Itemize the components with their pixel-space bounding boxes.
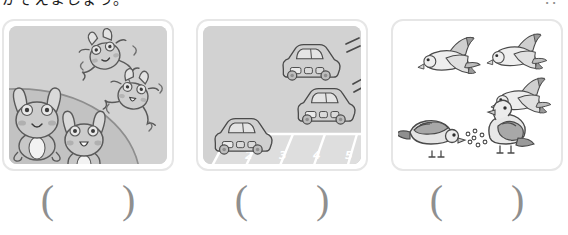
birds-illustration bbox=[398, 26, 556, 164]
answer-blank-frogs[interactable]: ( ) bbox=[2, 176, 174, 224]
svg-text:3: 3 bbox=[279, 149, 287, 162]
exercise-panel-birds[interactable] bbox=[391, 19, 563, 171]
svg-text:5: 5 bbox=[345, 149, 353, 162]
exercise-panel-cars[interactable]: 2 3 4 5 bbox=[196, 19, 368, 171]
svg-text:4: 4 bbox=[312, 149, 321, 162]
answer-blank-birds[interactable]: ( ) bbox=[391, 176, 563, 224]
frogs-scene bbox=[9, 26, 167, 164]
exercise-panel-frogs[interactable] bbox=[2, 19, 174, 171]
birds-scene bbox=[398, 26, 556, 164]
parking-lot-scene: 2 3 4 5 bbox=[203, 26, 361, 164]
heading-corner-marks: ．． bbox=[544, 0, 564, 7]
cars-illustration: 2 3 4 5 bbox=[203, 26, 361, 164]
answer-blank-cars[interactable]: ( ) bbox=[196, 176, 368, 224]
frogs-illustration bbox=[9, 26, 167, 164]
exercise-panel-row: 2 3 4 5 bbox=[0, 19, 568, 175]
page-heading: かぞえましょう。 bbox=[2, 0, 129, 8]
answers-row: ( ) ( ) ( ) bbox=[0, 176, 568, 232]
heading-strip: かぞえましょう。 ．． bbox=[0, 0, 568, 14]
